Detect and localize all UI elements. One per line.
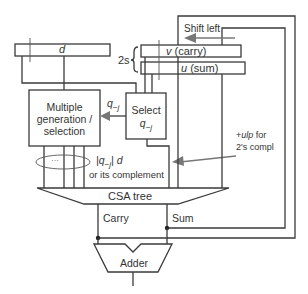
- width-brace: [131, 47, 138, 72]
- ulp-var: ulp: [241, 130, 253, 140]
- mg-line-2: generation /: [29, 113, 100, 125]
- carry-output-label: Carry: [103, 213, 129, 224]
- shift-left-label: Shift left: [184, 24, 220, 34]
- width-label-text: 2s: [118, 54, 130, 66]
- width-label: 2s: [118, 55, 130, 66]
- carry-text: (carry): [175, 45, 207, 57]
- q-arrow-head: [100, 111, 110, 121]
- q-sub: −j: [113, 103, 119, 112]
- carry-var: v: [166, 45, 172, 57]
- ulp-wire: [147, 139, 169, 188]
- shift-left-arrow-head: [184, 33, 196, 43]
- expr-a: |q: [96, 154, 105, 166]
- multiple-expression: |q−j| d: [96, 155, 123, 169]
- divisor-label: d: [59, 44, 65, 55]
- select-line-1: Select: [126, 104, 166, 117]
- sum-var: u: [181, 62, 187, 74]
- select-label: Select q−j: [126, 104, 166, 134]
- or-complement-label: or its complement: [89, 170, 164, 180]
- bus-ellipsis: ···: [51, 157, 59, 165]
- select-line-2: q−j: [126, 117, 166, 134]
- divider-diagram: d v (carry) u (sum) 2s Shift left Multip…: [0, 0, 308, 294]
- ulp-pointer-line: [180, 156, 236, 162]
- mg-line-1: Multiple: [29, 101, 100, 113]
- ulp-suffix: for: [253, 130, 266, 140]
- carry-register-label: v (carry): [166, 46, 206, 57]
- q-signal-label: q−j: [107, 98, 119, 112]
- select-q-sub: −j: [146, 123, 152, 132]
- sum-output-label: Sum: [172, 213, 194, 224]
- mg-line-3: selection: [29, 125, 100, 137]
- twos-compl-label: 2's compl: [236, 143, 274, 152]
- sum-text: (sum): [190, 62, 218, 74]
- sum-register-label: u (sum): [181, 63, 218, 74]
- ulp-label: +ulp for: [236, 131, 266, 140]
- multiple-generation-label: Multiple generation / selection: [29, 101, 100, 137]
- csa-tree-label: CSA tree: [108, 191, 152, 202]
- expr-b: | d: [111, 154, 122, 166]
- adder-label: Adder: [120, 258, 148, 269]
